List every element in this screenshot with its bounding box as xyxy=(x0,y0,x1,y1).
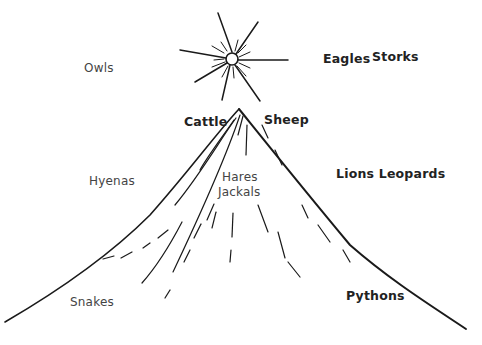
label-hyenas: Hyenas xyxy=(89,174,135,188)
mountain-hatching xyxy=(103,115,350,298)
label-lions-leopards: Lions Leopards xyxy=(336,166,445,181)
diagram-canvas: Owls Eagles Storks Cattle Sheep Hyenas H… xyxy=(0,0,482,345)
label-snakes: Snakes xyxy=(70,295,114,309)
label-cattle: Cattle xyxy=(184,114,228,129)
label-pythons: Pythons xyxy=(346,288,405,303)
label-eagles: Eagles xyxy=(323,51,370,66)
sun-icon xyxy=(180,13,288,101)
label-owls: Owls xyxy=(84,61,114,75)
label-jackals: Jackals xyxy=(218,185,261,199)
label-sheep: Sheep xyxy=(264,112,309,127)
label-hares: Hares xyxy=(222,170,258,184)
label-storks: Storks xyxy=(372,49,419,64)
